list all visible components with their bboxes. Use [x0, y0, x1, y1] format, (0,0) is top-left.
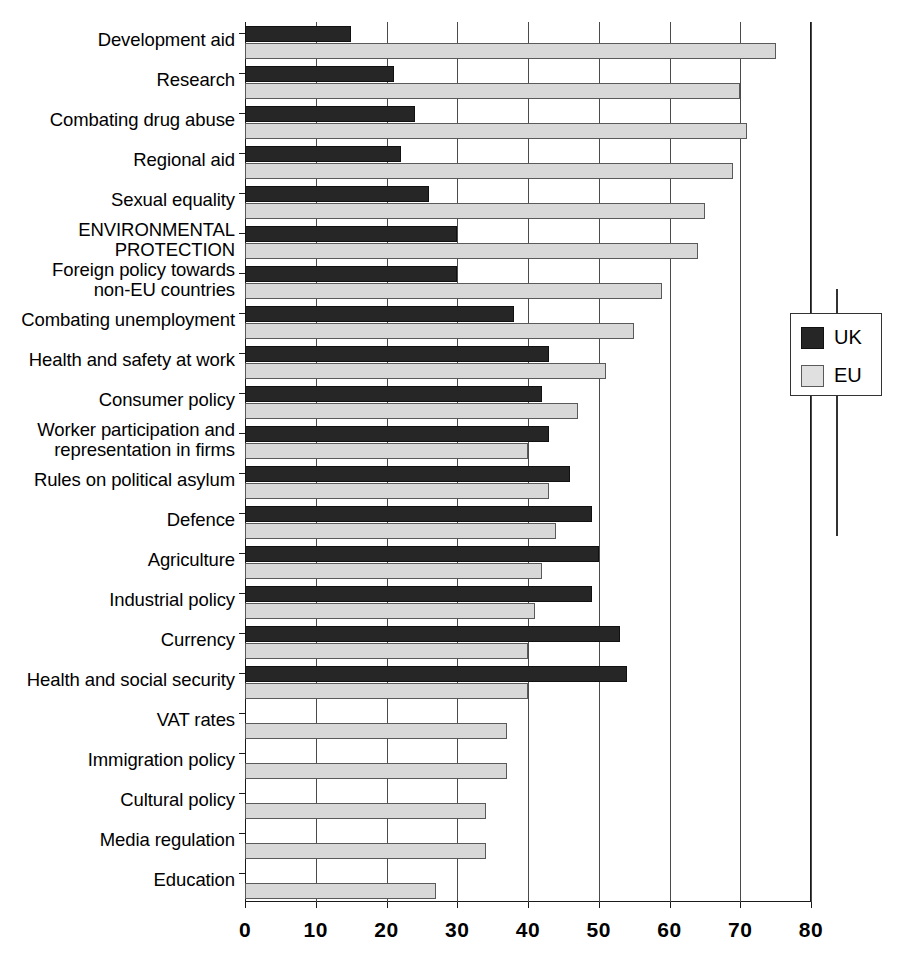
category-label: Health and social security — [3, 670, 235, 690]
legend-label: UK — [834, 326, 862, 349]
category-label-line: non-EU countries — [3, 280, 235, 300]
x-axis-tick — [316, 902, 317, 908]
category-label-line: Consumer policy — [3, 390, 235, 410]
x-axis-tick — [599, 902, 600, 908]
bar-eu — [245, 163, 733, 179]
bar-group — [245, 782, 811, 822]
category-label: Health and safety at work — [3, 350, 235, 370]
x-axis-tick — [740, 902, 741, 908]
bar-eu — [245, 243, 698, 259]
bar-uk — [245, 146, 401, 162]
bar-eu — [245, 563, 542, 579]
x-tick-label: 20 — [357, 918, 417, 942]
bar-group — [245, 422, 811, 462]
legend-leader-line-top — [836, 289, 838, 314]
bar-uk — [245, 666, 627, 682]
category-label-line: Cultural policy — [3, 790, 235, 810]
category-label-line: Industrial policy — [3, 590, 235, 610]
bar-eu — [245, 83, 740, 99]
x-tick-label: 10 — [286, 918, 346, 942]
category-label: ENVIRONMENTALPROTECTION — [3, 220, 235, 260]
category-label-line: Health and social security — [3, 670, 235, 690]
plot-area — [245, 22, 811, 902]
bar-uk — [245, 266, 457, 282]
category-label: Cultural policy — [3, 790, 235, 810]
bar-uk — [245, 506, 592, 522]
bar-uk — [245, 186, 429, 202]
x-tick-label: 0 — [215, 918, 275, 942]
bar-rows — [245, 22, 811, 902]
bar-eu — [245, 443, 528, 459]
category-label-line: Defence — [3, 510, 235, 530]
category-label-line: Combating drug abuse — [3, 110, 235, 130]
category-label-line: VAT rates — [3, 710, 235, 730]
bar-group — [245, 502, 811, 542]
category-label-line: Immigration policy — [3, 750, 235, 770]
x-axis-tick — [457, 902, 458, 908]
bar-uk — [245, 66, 394, 82]
x-tick-label: 80 — [781, 918, 841, 942]
bar-group — [245, 382, 811, 422]
bar-eu — [245, 643, 528, 659]
legend-leader-line-bottom — [836, 396, 838, 536]
bar-group — [245, 582, 811, 622]
category-tick — [239, 833, 245, 834]
bar-uk — [245, 466, 570, 482]
x-tick-label: 70 — [710, 918, 770, 942]
bar-eu — [245, 123, 747, 139]
bar-eu — [245, 363, 606, 379]
category-label-line: Development aid — [3, 30, 235, 50]
category-label: Regional aid — [3, 150, 235, 170]
bar-group — [245, 222, 811, 262]
bar-group — [245, 142, 811, 182]
category-label-line: Agriculture — [3, 550, 235, 570]
bar-group — [245, 862, 811, 902]
category-label-line: Rules on political asylum — [3, 470, 235, 490]
bar-group — [245, 822, 811, 862]
category-label: Currency — [3, 630, 235, 650]
legend: UKEU — [790, 313, 882, 396]
x-tick-label: 60 — [640, 918, 700, 942]
x-axis-tick — [387, 902, 388, 908]
bar-group — [245, 182, 811, 222]
bar-eu — [245, 723, 507, 739]
category-label: Development aid — [3, 30, 235, 50]
category-label: VAT rates — [3, 710, 235, 730]
bar-eu — [245, 483, 549, 499]
category-label-line: ENVIRONMENTAL — [3, 220, 235, 240]
bar-group — [245, 542, 811, 582]
bar-eu — [245, 763, 507, 779]
legend-item-uk: UK — [801, 326, 862, 349]
bar-group — [245, 622, 811, 662]
gridline — [811, 22, 812, 902]
category-tick — [239, 753, 245, 754]
category-label-line: Currency — [3, 630, 235, 650]
bar-eu — [245, 883, 436, 899]
category-label-line: Combating unemployment — [3, 310, 235, 330]
x-axis-tick — [670, 902, 671, 908]
category-label: Research — [3, 70, 235, 90]
legend-swatch-uk — [801, 327, 824, 349]
category-label-line: Sexual equality — [3, 190, 235, 210]
bar-eu — [245, 683, 528, 699]
category-label-line: Worker participation and — [3, 420, 235, 440]
category-label-line: Media regulation — [3, 830, 235, 850]
bar-group — [245, 702, 811, 742]
x-axis-tick — [528, 902, 529, 908]
bar-eu — [245, 403, 578, 419]
bar-uk — [245, 426, 549, 442]
category-label-line: Regional aid — [3, 150, 235, 170]
bar-uk — [245, 226, 457, 242]
category-label-line: PROTECTION — [3, 240, 235, 260]
category-label: Media regulation — [3, 830, 235, 850]
category-label-line: Foreign policy towards — [3, 260, 235, 280]
category-label-line: Education — [3, 870, 235, 890]
bar-eu — [245, 43, 776, 59]
bar-eu — [245, 843, 486, 859]
category-label: Agriculture — [3, 550, 235, 570]
category-label: Immigration policy — [3, 750, 235, 770]
category-label: Industrial policy — [3, 590, 235, 610]
bar-eu — [245, 803, 486, 819]
bar-chart: Development aidResearchCombating drug ab… — [0, 0, 899, 975]
bar-uk — [245, 586, 592, 602]
